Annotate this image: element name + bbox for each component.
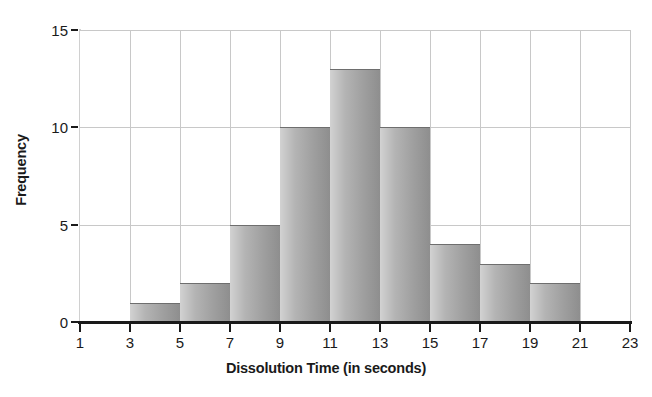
x-axis-tick-mark (529, 324, 531, 332)
y-axis-title-text: Frequency (13, 134, 29, 206)
gridline-vertical (630, 30, 631, 322)
x-axis-tick-label: 23 (622, 334, 639, 351)
x-axis-tick-label: 1 (76, 334, 84, 351)
x-axis-tick-mark (229, 324, 231, 332)
y-axis-title: Frequency (6, 0, 36, 340)
histogram-bar (530, 283, 580, 322)
x-axis-tick-label: 15 (422, 334, 439, 351)
y-axis-tick-label: 0 (60, 314, 68, 331)
x-axis-tick-label: 9 (276, 334, 284, 351)
x-axis-tick-mark (179, 324, 181, 332)
y-axis-tick-label: 5 (60, 216, 68, 233)
x-axis-tick-label: 21 (572, 334, 589, 351)
x-axis-tick-mark (429, 324, 431, 332)
y-axis-tick-label: 15 (51, 22, 68, 39)
x-axis-tick-label: 19 (522, 334, 539, 351)
histogram-bar (480, 264, 530, 322)
histogram-figure: Frequency 051015 Dissolution Time (in se… (0, 0, 652, 397)
x-axis-tick-label: 3 (126, 334, 134, 351)
x-axis-tick-label: 11 (322, 334, 338, 351)
plot-area (80, 30, 630, 322)
x-axis-line (78, 321, 632, 324)
histogram-bar (430, 244, 480, 322)
histogram-bar (180, 283, 230, 322)
y-axis-tick-mark (71, 321, 78, 323)
x-axis-tick-mark (479, 324, 481, 332)
gridline-vertical (180, 30, 181, 322)
gridline-vertical (530, 30, 531, 322)
y-axis-tick-label: 10 (51, 119, 68, 136)
gridline-vertical (130, 30, 131, 322)
gridline-horizontal (80, 30, 630, 31)
x-axis-tick-mark (579, 324, 581, 332)
x-axis-tick-mark (379, 324, 381, 332)
x-axis-tick-mark (279, 324, 281, 332)
x-axis-tick-mark (79, 324, 81, 332)
x-axis-tick-label: 17 (472, 334, 489, 351)
x-axis-tick-mark (629, 324, 631, 332)
y-axis-tick-mark (71, 126, 78, 128)
x-axis-tick-label: 7 (226, 334, 234, 351)
y-axis-tick-mark (71, 224, 78, 226)
histogram-bar (130, 303, 180, 322)
gridline-vertical (580, 30, 581, 322)
x-axis-tick-label: 13 (372, 334, 389, 351)
x-axis-tick-label: 5 (176, 334, 184, 351)
histogram-bar (230, 225, 280, 322)
histogram-bar (380, 127, 430, 322)
y-axis-tick-labels: 051015 (36, 0, 78, 340)
x-axis-tick-mark (329, 324, 331, 332)
x-axis-title: Dissolution Time (in seconds) (0, 360, 652, 376)
x-axis-tick-mark (129, 324, 131, 332)
y-axis-tick-mark (71, 29, 78, 31)
histogram-bar (330, 69, 380, 322)
histogram-bar (280, 127, 330, 322)
